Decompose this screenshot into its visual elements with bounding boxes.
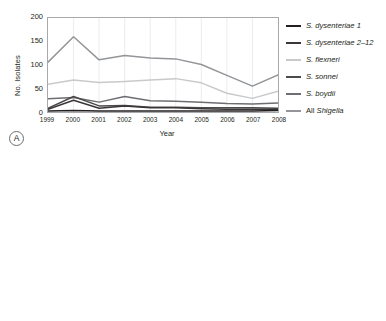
- legend-label: S. flexneri: [306, 55, 340, 64]
- x-tick-label: 2004: [163, 116, 189, 123]
- legend-swatch-line-icon: [286, 42, 301, 44]
- legend-label: S. dysenteriae 1: [306, 21, 361, 30]
- x-tick-label: 2002: [111, 116, 137, 123]
- x-tick-label: 2007: [240, 116, 266, 123]
- x-axis-title-a: Year: [137, 129, 197, 138]
- legend-label: All Shigella: [306, 106, 344, 115]
- y-tick-label: 150: [17, 36, 43, 45]
- figure-shigella-isolates: A No. Isolates Year 050100150200 1999200…: [0, 0, 386, 321]
- legend-item: S. boydii: [286, 85, 374, 102]
- legend-swatch-line-icon: [286, 110, 301, 112]
- y-tick-label: 100: [17, 60, 43, 69]
- y-tick-label: 50: [17, 84, 43, 93]
- legend-swatch-line-icon: [286, 76, 301, 78]
- y-tick-label: 200: [17, 12, 43, 21]
- legend-a: S. dysenteriae 1S. dysenteriae 2–12S. fl…: [286, 17, 374, 119]
- legend-item: S. dysenteriae 1: [286, 17, 374, 34]
- plot-area-a: [47, 17, 279, 113]
- legend-item: S. flexneri: [286, 51, 374, 68]
- legend-swatch-line-icon: [286, 25, 301, 27]
- legend-swatch-line-icon: [286, 59, 301, 61]
- legend-label: S. dysenteriae 2–12: [306, 38, 374, 47]
- x-tick-label: 2003: [137, 116, 163, 123]
- x-tick-label: 2001: [86, 116, 112, 123]
- chart-lines-a: [48, 18, 278, 112]
- panel-label-a: A: [9, 131, 24, 146]
- legend-swatch-line-icon: [286, 93, 301, 95]
- legend-label: S. boydii: [306, 89, 335, 98]
- legend-item: All Shigella: [286, 102, 374, 119]
- x-tick-label: 2006: [214, 116, 240, 123]
- x-tick-label: 1999: [34, 116, 60, 123]
- panel-a: A No. Isolates Year 050100150200 1999200…: [0, 0, 386, 160]
- panel-b: B No. Isolates Year 050100150200250 2000…: [0, 160, 386, 321]
- x-tick-label: 2000: [60, 116, 86, 123]
- x-tick-label: 2005: [189, 116, 215, 123]
- legend-label: S. sonnei: [306, 72, 338, 81]
- legend-item: S. sonnei: [286, 68, 374, 85]
- legend-item: S. dysenteriae 2–12: [286, 34, 374, 51]
